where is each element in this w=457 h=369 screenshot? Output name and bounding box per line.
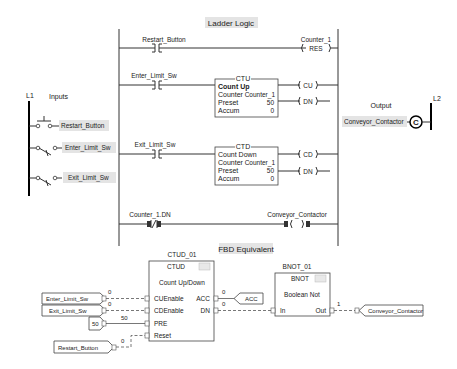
oref-acc-label: ACC [245, 296, 258, 302]
ctd-preset-label: Preset [218, 167, 238, 174]
limit-switch-icon [39, 178, 51, 186]
ctd-block[interactable]: CTD Count Down Counter Counter_1 Preset … [215, 143, 278, 185]
ctud-config-button[interactable] [199, 263, 210, 270]
rung-3-contact-tag: Exit_Limit_Sw [135, 141, 176, 149]
input-enter-label: Enter_Limit_Sw [65, 144, 111, 152]
ctud-pin-pre: PRE [154, 320, 168, 327]
ctd-block-name: Count Down [218, 151, 257, 158]
ctd-preset-value: 50 [267, 167, 275, 174]
output-panel: L2 Output Conveyor_Contactor C [342, 95, 441, 130]
bnot-config-button[interactable] [315, 275, 326, 282]
bnot-type: BNOT [291, 275, 309, 282]
rung-4[interactable]: Counter_1.DN Conveyor_Contactor [119, 211, 338, 228]
ctu-counter-label: Counter [218, 91, 244, 98]
output-conveyor-contactor[interactable]: Conveyor_Contactor C [342, 116, 431, 128]
ctd-accum-label: Accum [218, 175, 240, 182]
inputs-panel: L1 Inputs Restart_Button Enter_Limit_Sw [26, 92, 116, 196]
push-button-icon [37, 116, 51, 121]
ctud-instance-name: CTUD_01 [168, 251, 197, 259]
ctu-accum-value: 0 [270, 107, 274, 114]
iref-enter-label: Enter_Limit_Sw [46, 296, 89, 302]
input-exit-limit-sw[interactable]: Exit_Limit_Sw [29, 172, 116, 186]
ctud-block[interactable]: CTUD_01 CTUD Count Up/Down CUEnable CDEn… [145, 251, 218, 341]
rung-2-contact-tag: Enter_Limit_Sw [131, 72, 177, 80]
output-tag-label: Conveyor_Contactor [344, 118, 404, 126]
constant-50[interactable]: 50 [89, 317, 106, 330]
input-restart-button[interactable]: Restart_Button [29, 116, 109, 131]
wire-value-acc: 0 [222, 289, 226, 295]
input-exit-label: Exit_Limit_Sw [68, 174, 109, 182]
ctd-counter-label: Counter [218, 159, 244, 166]
bnot-instance-name: BNOT_01 [283, 263, 312, 271]
cu-coil-label: CU [303, 82, 313, 89]
ctu-block-type: CTU [236, 75, 250, 82]
ctu-accum-label: Accum [218, 107, 240, 114]
oref-conveyor-contactor[interactable]: Conveyor_Contactor [355, 305, 423, 316]
fbd-section: FBD Equivalent CTUD_01 CTUD Count Up/Dow… [42, 243, 423, 353]
ctud-pin-cdenable: CDEnable [154, 307, 184, 314]
output-coil-icon [284, 221, 288, 227]
ladder-logic: Ladder Logic Restart_Button Counter_1 RE… [119, 17, 338, 246]
ctud-pin-acc: ACC [196, 295, 210, 302]
iref-enter-limit-sw[interactable]: Enter_Limit_Sw [42, 293, 106, 304]
ctd-counter-value: Counter_1 [245, 159, 276, 167]
iref-restart-label: Restart_Button [58, 345, 98, 351]
limit-switch-icon [39, 148, 51, 156]
iref-restart-button[interactable]: Restart_Button [54, 341, 116, 353]
rung-1-coil-tag: Counter_1 [301, 36, 332, 44]
rung-1-contact-tag: Restart_Button [142, 36, 186, 44]
output-title: Output [370, 102, 391, 110]
ctd-block-type: CTD [236, 143, 250, 150]
ctd-accum-value: 0 [270, 175, 274, 182]
dn-coil-label: DN [303, 168, 313, 175]
wire-value-out: 1 [337, 301, 341, 307]
constant-value: 50 [92, 321, 99, 327]
input-enter-limit-sw[interactable]: Enter_Limit_Sw [29, 142, 116, 156]
ctu-preset-label: Preset [218, 99, 238, 106]
bnot-pin-in: In [280, 307, 286, 314]
rung-3[interactable]: Exit_Limit_Sw CTD Count Down Counter Cou… [119, 141, 338, 185]
input-restart-label: Restart_Button [61, 122, 105, 130]
oref-acc[interactable]: ACC [234, 293, 263, 304]
wire-value-cdenable: 0 [108, 301, 112, 307]
wire-value-reset: 0 [121, 338, 125, 344]
coil-symbol: C [413, 118, 419, 127]
l1-label: L1 [26, 92, 34, 99]
ctud-pin-reset: Reset [154, 332, 171, 339]
ctu-preset-value: 50 [267, 99, 275, 106]
ctu-counter-value: Counter_1 [245, 91, 276, 99]
wire-value-cuenable: 0 [108, 289, 112, 295]
nc-contact-icon [147, 221, 151, 227]
cd-coil-label: CD [303, 151, 313, 158]
fbd-title: FBD Equivalent [218, 245, 274, 254]
ctud-type: CTUD [167, 263, 185, 270]
oref-conveyor-label: Conveyor_Contactor [368, 308, 423, 314]
iref-exit-label: Exit_Limit_Sw [49, 308, 87, 314]
ladder-title: Ladder Logic [208, 19, 254, 28]
ctu-block-name: Count Up [218, 83, 250, 91]
bnot-description: Boolean Not [284, 291, 320, 298]
rung-4-coil-tag: Conveyor_Contactor [267, 211, 327, 219]
l2-label: L2 [433, 95, 441, 102]
diagram-canvas: Ladder Logic Restart_Button Counter_1 RE… [0, 0, 457, 369]
rung-1[interactable]: Restart_Button Counter_1 RES [119, 36, 338, 52]
inputs-title: Inputs [49, 93, 69, 101]
wire-value-dn: 0 [222, 301, 226, 307]
ctud-pin-dn: DN [201, 307, 211, 314]
ctud-pin-cuenable: CUEnable [154, 295, 184, 302]
rung-1-coil: RES [309, 45, 323, 52]
ctu-block[interactable]: CTU Count Up Counter Counter_1 Preset 50… [215, 75, 278, 117]
rung-2[interactable]: Enter_Limit_Sw CTU Count Up Counter Coun… [119, 72, 338, 117]
ctud-description: Count Up/Down [159, 279, 205, 287]
rung-4-contact-tag: Counter_1.DN [129, 211, 171, 219]
iref-exit-limit-sw[interactable]: Exit_Limit_Sw [42, 305, 106, 316]
wire-value-pre: 50 [121, 315, 128, 321]
bnot-pin-out: Out [316, 307, 327, 314]
bnot-block[interactable]: BNOT_01 BNOT Boolean Not In Out [271, 263, 334, 316]
dn-coil-label: DN [303, 98, 313, 105]
